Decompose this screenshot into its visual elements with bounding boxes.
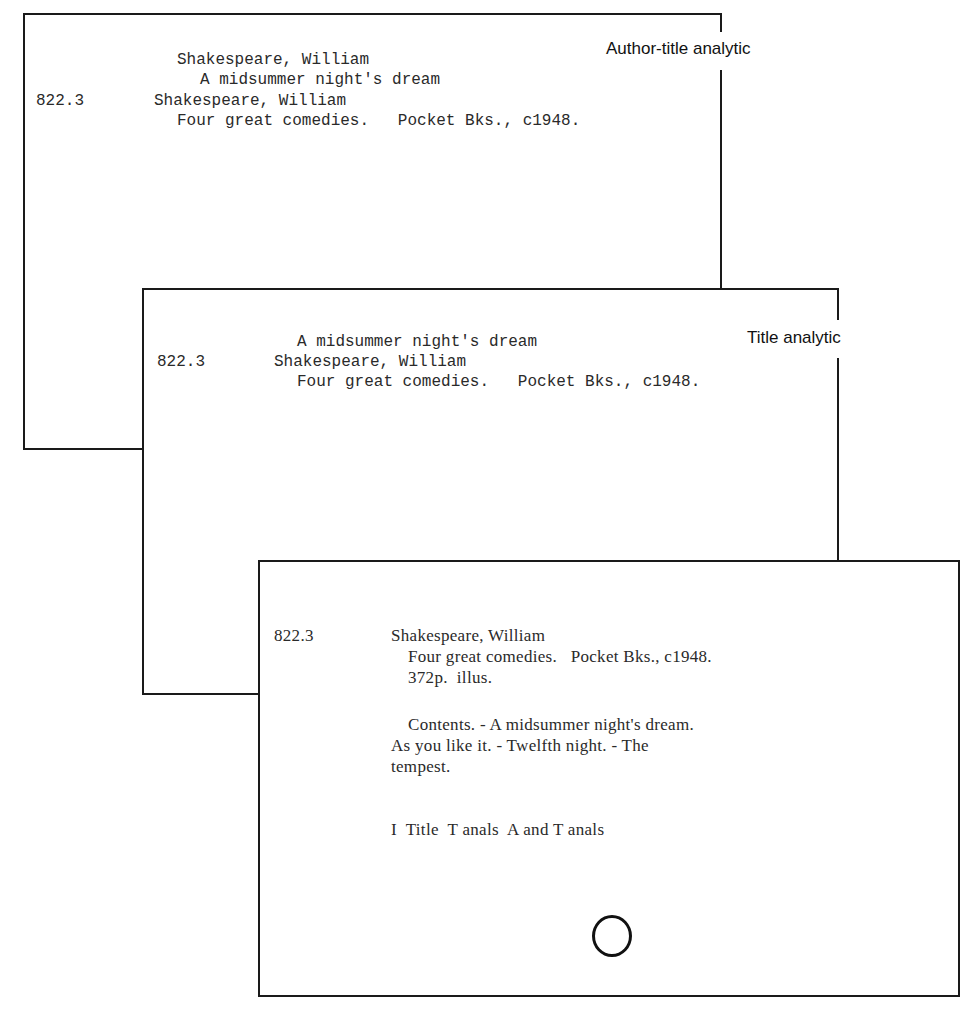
call-number: 822.3 [274, 626, 314, 646]
contents-line-2: As you like it. - Twelfth night. - The [391, 736, 649, 756]
main-entry-card: 822.3 Shakespeare, William Four great co… [258, 560, 960, 997]
punch-hole-icon [592, 915, 632, 957]
title-analytic-label: Title analytic [747, 326, 841, 350]
heading-title: A midsummer night's dream [297, 332, 537, 352]
author-line: Shakespeare, William [154, 91, 346, 111]
author-title-analytic-label: Author-title analytic [606, 37, 751, 61]
collation-line: 372p. illus. [408, 668, 492, 688]
title-imprint-line: Four great comedies. Pocket Bks., c1948. [408, 647, 712, 667]
call-number: 822.3 [157, 352, 205, 372]
heading-title: A midsummer night's dream [200, 70, 440, 90]
contents-line-1: Contents. - A midsummer night's dream. [408, 715, 694, 735]
title-imprint-line: Four great comedies. Pocket Bks., c1948. [297, 372, 700, 392]
contents-line-3: tempest. [391, 757, 451, 777]
heading-author: Shakespeare, William [177, 50, 369, 70]
title-imprint-line: Four great comedies. Pocket Bks., c1948. [177, 111, 580, 131]
author-line: Shakespeare, William [274, 352, 466, 372]
tracing-line: I Title T anals A and T anals [391, 820, 604, 840]
call-number: 822.3 [36, 91, 84, 111]
author-line: Shakespeare, William [391, 626, 545, 646]
